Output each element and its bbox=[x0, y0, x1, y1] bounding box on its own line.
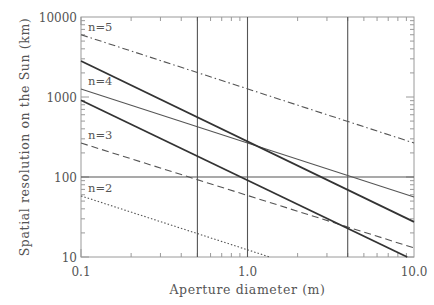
ytick-1000: 1000 bbox=[46, 91, 77, 105]
label-n5: n=5 bbox=[88, 20, 112, 34]
xtick-10.0: 10.0 bbox=[401, 265, 428, 279]
ytick-100: 100 bbox=[54, 171, 77, 185]
label-n2: n=2 bbox=[88, 181, 112, 195]
xtick-1.0: 1.0 bbox=[238, 265, 257, 279]
label-n4: n=4 bbox=[88, 74, 112, 88]
ytick-10000: 10000 bbox=[39, 11, 77, 25]
y-axis-title: Spatial resolution on the Sun (km) bbox=[17, 18, 32, 257]
ytick-10: 10 bbox=[62, 251, 77, 265]
reference-lines bbox=[81, 17, 414, 257]
xtick-0.1: 0.1 bbox=[71, 265, 90, 279]
series-n-2 bbox=[81, 196, 270, 257]
x-axis-title: Aperture diameter (m) bbox=[168, 282, 325, 297]
label-n3: n=3 bbox=[88, 128, 112, 142]
resolution-vs-aperture-chart: n=5 n=4 n=3 n=2 10000 1000 100 10 0.1 1.… bbox=[0, 0, 434, 305]
